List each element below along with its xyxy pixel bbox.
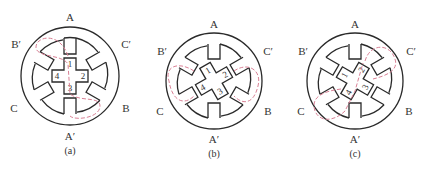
pole-label-C-prime: C′: [406, 45, 416, 57]
pole-label-B: B: [122, 102, 129, 114]
pole-label-B-prime: B′: [298, 45, 308, 57]
pole-label-B: B: [264, 105, 271, 117]
panel-c: 1 2 3 4 A A′ B′ C′ C B (c): [297, 18, 416, 160]
pole-label-C: C: [10, 102, 17, 114]
pole-label-A-prime: A′: [350, 133, 360, 145]
pole-label-C-prime: C′: [121, 38, 131, 50]
caption-c: (c): [349, 148, 360, 160]
stepper-motor-figure: 1 2 3 4 A A′ B′ C′ C B (a) 1: [0, 0, 430, 172]
pole-label-C-prime: C′: [263, 45, 273, 57]
pole-label-B-prime: B′: [11, 38, 21, 50]
pole-label-B: B: [405, 105, 412, 117]
panel-b: 1 2 3 4 A A′ B′ C′ C B (b): [156, 18, 273, 160]
pole-label-A: A: [210, 18, 218, 30]
pole-label-A-prime: A′: [209, 133, 219, 145]
pole-label-A: A: [351, 18, 359, 30]
caption-a: (a): [64, 145, 75, 157]
panel-a: 1 2 3 4 A A′ B′ C′ C B (a): [10, 11, 131, 157]
rotor-tooth-2: 2: [81, 71, 86, 81]
pole-label-A-prime: A′: [65, 130, 75, 142]
pole-label-B-prime: B′: [157, 45, 167, 57]
pole-label-C: C: [297, 105, 304, 117]
rotor-tooth-4: 4: [55, 71, 60, 81]
pole-label-A: A: [66, 11, 74, 23]
pole-label-C: C: [156, 105, 163, 117]
caption-b: (b): [208, 148, 220, 160]
